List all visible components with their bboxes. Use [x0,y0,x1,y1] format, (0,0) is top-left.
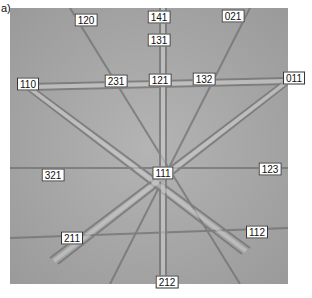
pole-label: 321 [42,169,65,182]
pole-label: 111 [152,167,173,180]
pole-label: 131 [148,34,171,47]
pole-label: 231 [105,75,128,88]
pole-label: 011 [283,72,305,85]
pole-label: 121 [149,74,172,87]
pole-label: 123 [259,163,282,176]
pole-label: 021 [222,10,245,23]
pole-label: 110 [17,78,39,91]
pole-label: 212 [156,276,179,289]
kikuchi-pattern [10,8,288,284]
pole-label: 112 [246,226,268,239]
pole-label: 120 [75,14,98,27]
pole-label: 141 [148,11,171,24]
kikuchi-bands [10,8,288,284]
pole-label: 211 [61,232,83,245]
pole-label: 132 [193,73,216,86]
